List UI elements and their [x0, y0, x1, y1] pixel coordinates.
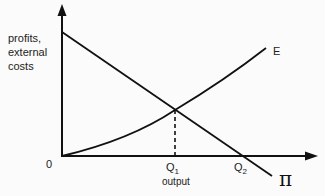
- q2-label: Q2: [234, 161, 248, 176]
- curve-e-label: E: [273, 45, 280, 57]
- x-axis-label: output: [162, 176, 190, 187]
- origin-label: 0: [46, 158, 52, 170]
- y-axis-label: profits, external costs: [8, 32, 50, 72]
- profit-line-pi: [62, 32, 272, 176]
- x-axis-arrow-icon: [305, 152, 318, 161]
- y-axis-arrow-icon: [58, 4, 67, 16]
- q1-label: Q1: [166, 161, 180, 176]
- diagram-canvas: profits, external costs 0 E Q1 output Q2…: [0, 0, 325, 196]
- curve-pi-label: π: [279, 167, 292, 191]
